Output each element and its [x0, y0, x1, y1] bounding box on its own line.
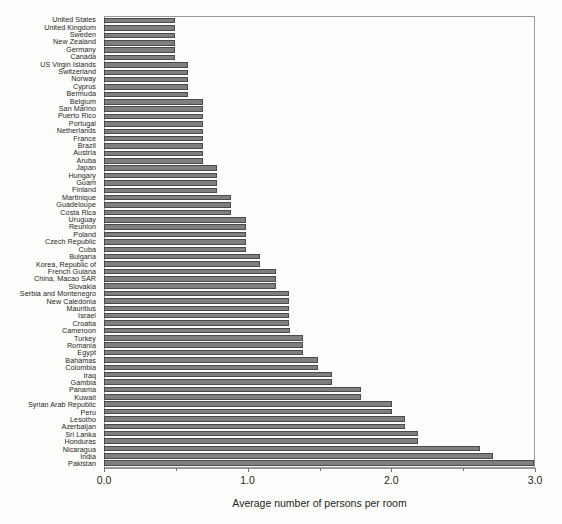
bar	[104, 372, 332, 378]
bar	[104, 409, 392, 415]
bar-row	[105, 445, 534, 452]
bar	[104, 47, 175, 53]
bar-row	[105, 142, 534, 149]
bar-row	[105, 393, 534, 400]
x-axis-tick-label: 3.0	[528, 474, 543, 486]
bar	[104, 129, 203, 135]
bar	[104, 394, 361, 400]
bar-row	[105, 209, 534, 216]
bar	[104, 283, 276, 289]
bar-row	[105, 17, 534, 24]
bar	[104, 77, 188, 83]
bar-row	[105, 106, 534, 113]
bar-row	[105, 268, 534, 275]
bar	[104, 276, 276, 282]
x-axis-minor-tick	[320, 468, 321, 471]
bar	[104, 55, 175, 61]
bar-row	[105, 356, 534, 363]
bar-row	[105, 253, 534, 260]
bar-row	[105, 378, 534, 385]
bar-row	[105, 150, 534, 157]
bar	[104, 254, 260, 260]
bar-chart: United StatesUnited KingdomSwedenNew Zea…	[0, 0, 562, 524]
bar	[104, 217, 246, 223]
bar	[104, 151, 203, 157]
bar	[104, 298, 289, 304]
bar	[104, 438, 418, 444]
bar-row	[105, 260, 534, 267]
y-axis-labels: United StatesUnited KingdomSwedenNew Zea…	[0, 16, 100, 468]
bar-row	[105, 128, 534, 135]
x-axis: 0.01.02.03.0	[104, 468, 535, 469]
bar-row	[105, 157, 534, 164]
bar-row	[105, 69, 534, 76]
bar-row	[105, 423, 534, 430]
bar-row	[105, 135, 534, 142]
bar	[104, 306, 289, 312]
bar-row	[105, 364, 534, 371]
bar-row	[105, 275, 534, 282]
bar-row	[105, 238, 534, 245]
bar-row	[105, 47, 534, 54]
plot-area	[104, 16, 535, 468]
bar-row	[105, 39, 534, 46]
bar	[104, 158, 203, 164]
bar	[104, 401, 392, 407]
bar	[104, 165, 217, 171]
bar	[104, 431, 418, 437]
bar-row	[105, 452, 534, 459]
bar	[104, 232, 246, 238]
bar-row	[105, 172, 534, 179]
bar-row	[105, 430, 534, 437]
bar	[104, 106, 203, 112]
bar-row	[105, 327, 534, 334]
bar-row	[105, 460, 534, 467]
bar	[104, 33, 175, 39]
bar-row	[105, 297, 534, 304]
bar	[104, 239, 246, 245]
bar-row	[105, 120, 534, 127]
bar	[104, 62, 188, 68]
bar-row	[105, 76, 534, 83]
bar	[104, 84, 188, 90]
bar	[104, 291, 289, 297]
bar-row	[105, 187, 534, 194]
bar-row	[105, 179, 534, 186]
bar-row	[105, 401, 534, 408]
bar	[104, 188, 217, 194]
bar-row	[105, 334, 534, 341]
bar	[104, 453, 493, 459]
bar	[104, 350, 303, 356]
x-axis-tick	[391, 468, 392, 472]
bar-row	[105, 342, 534, 349]
bar	[104, 114, 203, 120]
bar	[104, 328, 290, 334]
bar-row	[105, 201, 534, 208]
bar	[104, 247, 246, 253]
bar-row	[105, 113, 534, 120]
bars-container	[105, 17, 534, 467]
bar-row	[105, 194, 534, 201]
bar	[104, 195, 231, 201]
bar	[104, 224, 246, 230]
bar	[104, 92, 188, 98]
bar-row	[105, 371, 534, 378]
bar-row	[105, 91, 534, 98]
bar	[104, 136, 203, 142]
bar	[104, 424, 405, 430]
x-axis-title: Average number of persons per room	[104, 497, 535, 509]
bar-row	[105, 98, 534, 105]
bar-row	[105, 246, 534, 253]
bar	[104, 40, 175, 46]
bar-row	[105, 231, 534, 238]
bar	[104, 342, 303, 348]
bar-row	[105, 165, 534, 172]
bar	[104, 143, 203, 149]
bar-row	[105, 305, 534, 312]
bar-row	[105, 24, 534, 31]
y-axis-tick-label: Pakistan	[0, 460, 100, 467]
bar	[104, 313, 289, 319]
x-axis-tick	[248, 468, 249, 472]
bar-row	[105, 408, 534, 415]
bar-row	[105, 83, 534, 90]
